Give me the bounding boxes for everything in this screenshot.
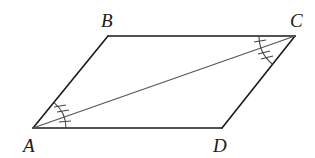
angle-tick-a-upper-1 [54,105,66,107]
angle-tick-a-upper-2 [57,110,69,112]
parallelogram-diagram: B C A D [0,0,315,158]
vertex-label-b: B [101,10,113,31]
angle-tick-c-lower-1 [258,51,270,54]
diagonal-ac [33,36,295,128]
vertex-label-c: C [290,10,303,31]
edge-cd [222,36,295,128]
angle-tick-a-lower [59,121,71,122]
vertex-label-d: D [212,135,227,156]
angle-tick-c-upper [254,40,266,42]
vertex-label-a: A [21,135,35,156]
